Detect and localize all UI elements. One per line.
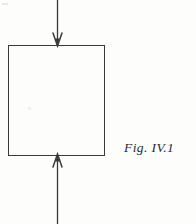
figure-illustration: Fig. IV.1 (0, 0, 196, 224)
block-rectangle (9, 46, 105, 156)
top-load-arrow (53, 0, 62, 46)
bottom-load-arrow (53, 154, 62, 224)
diagram-canvas (0, 0, 196, 224)
